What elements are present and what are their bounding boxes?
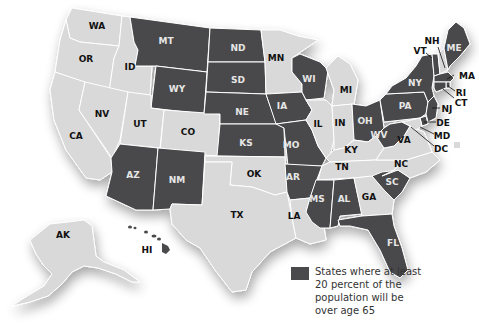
label-NV: NV <box>95 109 110 119</box>
state-CT[interactable] <box>434 82 446 92</box>
dc-marker <box>454 142 460 148</box>
label-NM: NM <box>169 175 186 185</box>
label-PA: PA <box>399 101 412 111</box>
label-MO: MO <box>283 140 300 150</box>
state-HI-island-3[interactable] <box>144 231 148 234</box>
label-AL: AL <box>338 194 351 204</box>
label-AR: AR <box>286 172 300 182</box>
label-MN: MN <box>268 53 285 63</box>
alaska <box>12 220 140 306</box>
label-WI: WI <box>302 74 315 84</box>
label-AZ: AZ <box>126 170 140 180</box>
label-VT: VT <box>413 46 427 56</box>
label-OH: OH <box>357 116 372 126</box>
label-MD: MD <box>434 131 450 141</box>
label-IA: IA <box>277 101 287 111</box>
label-NC: NC <box>394 159 409 169</box>
label-SC: SC <box>385 177 398 187</box>
label-TN: TN <box>335 162 349 172</box>
state-AK[interactable] <box>12 220 140 306</box>
label-LA: LA <box>288 211 301 221</box>
label-FL: FL <box>387 238 399 248</box>
label-OK: OK <box>247 169 263 179</box>
state-MI[interactable] <box>326 56 358 106</box>
label-HI: HI <box>142 245 153 255</box>
label-NY: NY <box>408 78 423 88</box>
label-WY: WY <box>169 84 186 94</box>
label-IN: IN <box>335 118 346 128</box>
label-WV: WV <box>371 130 388 140</box>
legend-text: States where at least 20 percent of the … <box>315 265 425 317</box>
label-WA: WA <box>89 21 106 31</box>
label-AK: AK <box>56 230 71 240</box>
label-NH: NH <box>424 36 439 46</box>
label-CO: CO <box>181 127 196 137</box>
label-KS: KS <box>239 138 252 148</box>
label-NE: NE <box>235 107 249 117</box>
legend-swatch <box>291 267 309 280</box>
state-HI-island-1[interactable] <box>128 226 132 229</box>
state-HI-big-island[interactable] <box>162 243 170 254</box>
label-MS: MS <box>309 194 324 204</box>
label-RI: RI <box>456 88 466 98</box>
label-MT: MT <box>158 36 174 46</box>
label-MI: MI <box>340 85 352 95</box>
label-MA: MA <box>459 71 475 81</box>
label-ME: ME <box>446 43 461 53</box>
state-HI-island-5[interactable] <box>157 238 161 241</box>
label-CT: CT <box>455 98 469 108</box>
state-HI-island-4[interactable] <box>152 235 157 238</box>
label-SD: SD <box>231 75 245 85</box>
legend: States where at least 20 percent of the … <box>291 265 425 317</box>
label-GA: GA <box>362 192 376 202</box>
label-NJ: NJ <box>442 104 453 114</box>
contiguous-us <box>50 8 470 292</box>
label-ID: ID <box>125 62 136 72</box>
label-ND: ND <box>230 43 245 53</box>
label-DC: DC <box>434 144 448 154</box>
label-KY: KY <box>344 145 358 155</box>
label-IL: IL <box>313 119 322 129</box>
label-CA: CA <box>69 131 83 141</box>
label-VA: VA <box>397 135 410 145</box>
label-DE: DE <box>436 118 450 128</box>
state-HI-island-2[interactable] <box>134 227 137 229</box>
label-TX: TX <box>230 210 243 220</box>
label-UT: UT <box>133 119 147 129</box>
label-OR: OR <box>79 54 94 64</box>
